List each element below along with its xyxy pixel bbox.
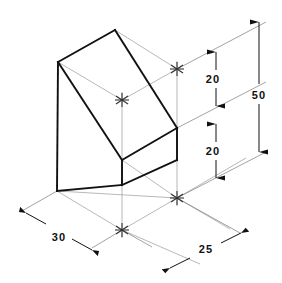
base-grid-line-d [122,160,177,198]
mark-top-front [115,93,129,107]
mark-base-right [170,191,184,205]
edge-lefttop-frontbottom [58,62,122,160]
mark-top-right [170,62,184,76]
dimension-height-lower: 20 [206,124,221,178]
dim-label-depth-left: 30 [52,231,67,243]
dim-line-30-b [72,239,92,250]
dimension-height-overall: 50 [252,22,267,152]
edge-base-front-right [122,160,177,185]
extension-line-right-base-down [177,198,240,233]
isometric-drawing-svg: 20 20 50 30 25 [0,0,282,283]
center-marks [115,62,184,237]
dim-line-30-a [26,213,46,224]
dimension-depth-left: 30 [26,213,92,250]
dimension-width-right: 25 [170,233,241,268]
extension-line-top-right-up [177,22,266,69]
dimension-height-upper: 20 [206,52,221,106]
base-grid-line-a [57,191,177,198]
dim-label-height-overall: 50 [252,89,267,101]
dim-label-height-upper: 20 [206,73,221,85]
technical-drawing-canvas: 20 20 50 30 25 [0,0,282,283]
construction-line-apex-to-righttop [115,30,177,69]
dim-label-height-lower: 20 [206,145,221,157]
construction-line-lefttop-to-frontmid [58,62,122,100]
edge-left-vertical [57,62,58,191]
object-outline [57,30,177,191]
extension-line-base-right [177,152,266,198]
extension-lines [22,22,266,248]
edge-frontbottom-rightbottom [122,128,177,160]
base-grid-line-b [57,191,122,230]
extension-line-left-base [22,191,57,211]
edge-apex-rightbottom [115,30,177,128]
base-grid-line-f [177,158,246,198]
base-grid-line-c [122,198,177,230]
dim-line-25-a [221,233,241,243]
edge-apex-lefttop [58,30,115,62]
mark-base-front [115,223,129,237]
dim-label-width-right: 25 [199,243,214,255]
dim-line-25-b [170,258,190,268]
